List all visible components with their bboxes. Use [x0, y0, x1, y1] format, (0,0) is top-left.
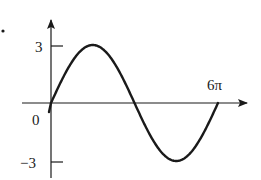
- origin-label: 0: [32, 112, 40, 128]
- bullet-dot: [1, 29, 4, 32]
- sine-wave-chart: 3 −3 0 6π: [0, 0, 261, 180]
- y-max-label: 3: [35, 39, 43, 55]
- x-end-label: 6π: [207, 77, 223, 93]
- y-min-label: −3: [20, 155, 36, 171]
